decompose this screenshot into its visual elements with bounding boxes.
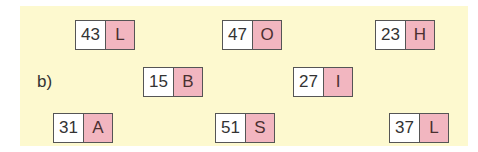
card-letter: O <box>253 21 281 49</box>
card-letter: B <box>174 68 202 96</box>
number-letter-card: 51 S <box>215 113 275 143</box>
section-label: b) <box>37 72 52 92</box>
number-letter-card: 15 B <box>143 67 203 97</box>
card-number: 37 <box>390 114 420 142</box>
card-letter: L <box>420 114 448 142</box>
card-number: 27 <box>294 68 324 96</box>
number-letter-card: 47 O <box>222 20 282 50</box>
card-number: 43 <box>76 21 106 49</box>
number-letter-card: 31 A <box>53 113 113 143</box>
number-letter-card: 27 I <box>293 67 353 97</box>
card-letter: S <box>246 114 274 142</box>
card-number: 47 <box>223 21 253 49</box>
card-number: 31 <box>54 114 84 142</box>
card-number: 23 <box>376 21 406 49</box>
card-letter: I <box>324 68 352 96</box>
number-letter-card: 43 L <box>75 20 135 50</box>
card-letter: A <box>84 114 112 142</box>
card-letter: H <box>406 21 434 49</box>
number-letter-card: 37 L <box>389 113 449 143</box>
card-letter: L <box>106 21 134 49</box>
card-number: 51 <box>216 114 246 142</box>
card-number: 15 <box>144 68 174 96</box>
number-letter-card: 23 H <box>375 20 435 50</box>
